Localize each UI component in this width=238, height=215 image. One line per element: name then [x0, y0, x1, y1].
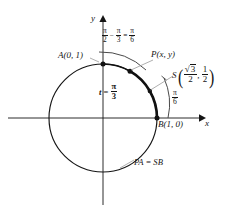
fraction-pi-over-6: π 6 — [129, 27, 135, 43]
leader-line-a — [90, 58, 99, 62]
arc-indicator-right — [164, 78, 170, 118]
fraction-arc-pi-over-6: π 6 — [172, 89, 178, 105]
arc-equality-label: PA = SB — [134, 158, 163, 167]
leader-line-s — [151, 76, 174, 90]
angle-equation-label: π 2 − π 3 = π 6 — [102, 27, 135, 43]
y-axis-arrowhead — [99, 15, 106, 22]
paren-open: ( — [178, 66, 183, 88]
y-axis-label: y — [91, 14, 95, 23]
x-axis-label: x — [205, 119, 209, 128]
fraction-pi-over-3: π 3 — [116, 27, 122, 43]
equals-sign: = — [123, 31, 127, 40]
fraction-sqrt3-over-2: √3 2 — [184, 64, 197, 84]
t-symbol: t — [99, 87, 101, 97]
fraction-pi-over-2: π 2 — [102, 27, 108, 43]
point-s-label: S( √3 2 , 1 2 ) — [172, 64, 216, 88]
axes-group — [8, 15, 206, 205]
point-p-label: P(x, y) — [151, 50, 175, 59]
point-b-label: B(1, 0) — [158, 120, 183, 129]
paren-close: ) — [209, 66, 214, 88]
minus-sign: − — [110, 31, 114, 40]
point-a-label: A(0, 1) — [58, 51, 83, 60]
point-s-name: S — [172, 70, 177, 80]
t-value-label: t = π 3 — [99, 82, 117, 101]
arc-pi-over-six-label: π 6 — [172, 89, 178, 105]
fraction-one-over-2: 1 2 — [202, 65, 209, 84]
t-equals-sign: = — [104, 87, 109, 97]
fraction-t-pi-over-3: π 3 — [111, 82, 118, 101]
arc-pa-highlight — [103, 64, 130, 71]
coordinate-comma: , — [197, 70, 199, 80]
arc-t-highlight — [130, 71, 157, 118]
point-marker-a — [101, 62, 106, 67]
unit-circle-figure: y x π 2 − π 3 = π 6 A(0, 1) P(x, y) S( √… — [0, 0, 238, 215]
arc-indicator-right-tick-top — [162, 76, 167, 80]
